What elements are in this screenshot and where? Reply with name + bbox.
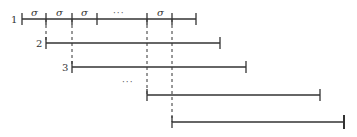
sigma-label: σ	[81, 7, 89, 18]
row-label: 1	[11, 14, 17, 25]
row-1	[22, 13, 196, 25]
ellipsis: ···	[113, 8, 125, 18]
row-label: 2	[36, 38, 42, 49]
sigma-label: σ	[31, 7, 39, 18]
ellipsis: ···	[122, 77, 134, 87]
interval-diagram: 1 σ σ σ ··· σ 2 3 ···	[0, 0, 357, 137]
sigma-label: σ	[157, 7, 165, 18]
row-label: 3	[62, 62, 68, 73]
row-3	[72, 61, 246, 73]
sigma-label: σ	[56, 7, 64, 18]
row-5	[172, 115, 344, 129]
row-4	[147, 89, 320, 101]
